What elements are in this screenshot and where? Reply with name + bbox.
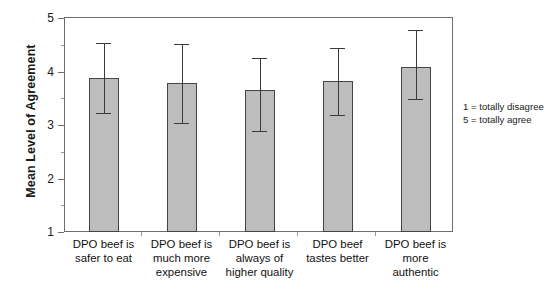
x-tick-1: [141, 232, 142, 236]
category-label-1: DPO beef is much more expensive: [142, 237, 221, 280]
category-label-2: DPO beef is always of higher quality: [220, 237, 299, 280]
errorbar-line-0: [104, 43, 105, 113]
y-tick-label-1: 1: [32, 226, 54, 238]
errorbar-cap-top-3: [330, 48, 345, 49]
errorbar-cap-top-1: [174, 44, 189, 45]
errorbar-line-4: [416, 30, 417, 99]
category-label-0: DPO beef is safer to eat: [64, 237, 143, 265]
category-label-2-line-1: always of: [220, 251, 299, 265]
y-tick-label-4: 4: [32, 66, 54, 78]
category-label-1-line-0: DPO beef is: [142, 237, 221, 251]
errorbar-line-1: [182, 44, 183, 123]
y-tick-major-1: [58, 232, 64, 233]
errorbar-cap-top-4: [408, 30, 423, 31]
category-label-3: DPO beef tastes better: [298, 237, 377, 265]
category-label-4: DPO beef is more authentic: [376, 237, 455, 280]
x-tick-3: [297, 232, 298, 236]
category-label-3-line-0: DPO beef: [298, 237, 377, 251]
category-label-0-line-1: safer to eat: [64, 251, 143, 265]
y-tick-label-3: 3: [32, 119, 54, 131]
x-tick-2: [219, 232, 220, 236]
category-label-1-line-2: expensive: [142, 265, 221, 279]
errorbar-cap-bottom-3: [330, 115, 345, 116]
category-label-4-line-2: authentic: [376, 265, 455, 279]
legend-annotation: 1 = totally disagree 5 = totally agree: [463, 100, 544, 126]
legend-line-2: 5 = totally agree: [463, 113, 544, 126]
errorbar-cap-bottom-2: [252, 131, 267, 132]
category-label-1-line-1: much more: [142, 251, 221, 265]
legend-line-1: 1 = totally disagree: [463, 100, 544, 113]
x-tick-4: [375, 232, 376, 236]
errorbar-line-2: [260, 58, 261, 131]
category-label-2-line-2: higher quality: [220, 265, 299, 279]
category-label-0-line-0: DPO beef is: [64, 237, 143, 251]
category-label-3-line-1: tastes better: [298, 251, 377, 265]
category-label-2-line-0: DPO beef is: [220, 237, 299, 251]
errorbar-cap-top-0: [96, 43, 111, 44]
errorbar-cap-bottom-4: [408, 99, 423, 100]
errorbar-cap-top-2: [252, 58, 267, 59]
category-label-4-line-1: more: [376, 251, 455, 265]
y-tick-label-5: 5: [32, 12, 54, 24]
category-label-4-line-0: DPO beef is: [376, 237, 455, 251]
bar-chart-figure: Mean Level of Agreement 5 4 3 2 1: [0, 0, 547, 297]
y-tick-label-2: 2: [32, 173, 54, 185]
errorbar-cap-bottom-0: [96, 113, 111, 114]
errorbar-line-3: [338, 48, 339, 115]
errorbar-cap-bottom-1: [174, 123, 189, 124]
